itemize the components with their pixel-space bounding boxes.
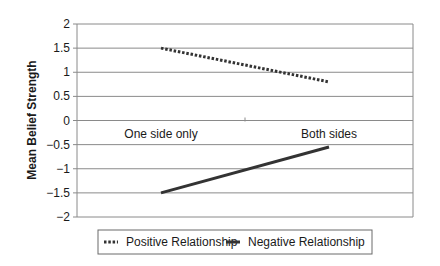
y-tick-label: 0 [63, 114, 70, 128]
x-category-label: One side only [124, 127, 197, 141]
legend-label: Positive Relationship [126, 235, 238, 249]
line-chart: 21.510.50−0.5−1−1.5−2 One side onlyBoth … [0, 0, 440, 266]
x-axis-categories: One side onlyBoth sides [124, 127, 357, 141]
y-tick-label: 0.5 [53, 89, 70, 103]
x-category-label: Both sides [301, 127, 357, 141]
series-line-positive-relationship [161, 48, 329, 82]
y-axis-ticks: 21.510.50−0.5−1−1.5−2 [46, 17, 77, 224]
y-tick-label: −2 [56, 210, 70, 224]
y-tick-label: −1 [56, 162, 70, 176]
y-tick-label: 2 [63, 17, 70, 31]
y-tick-label: 1 [63, 65, 70, 79]
y-tick-label: 1.5 [53, 41, 70, 55]
gridlines [77, 24, 413, 217]
y-tick-label: −0.5 [46, 138, 70, 152]
y-axis-label: Mean Belief Strength [25, 60, 39, 179]
legend-label: Negative Relationship [248, 235, 365, 249]
y-tick-label: −1.5 [46, 186, 70, 200]
legend: Positive RelationshipNegative Relationsh… [98, 230, 372, 254]
series-line-negative-relationship [161, 147, 329, 193]
